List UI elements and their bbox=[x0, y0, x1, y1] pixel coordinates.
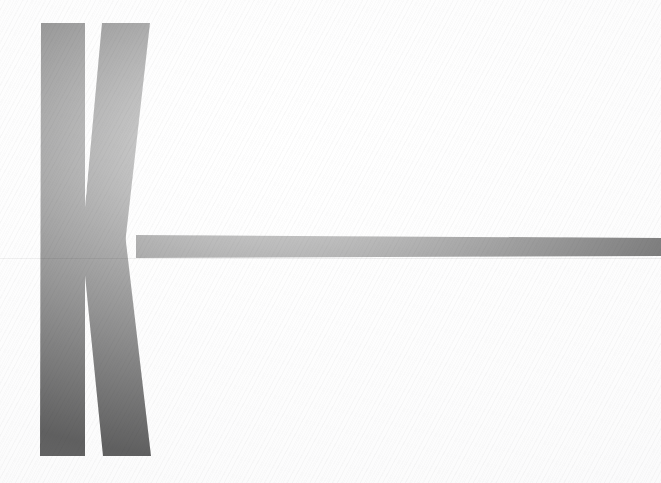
letter-k-artwork bbox=[0, 0, 661, 483]
horizontal-rule-bar bbox=[136, 235, 661, 258]
artwork-canvas: K bbox=[0, 0, 661, 483]
left-vertical-stem bbox=[40, 23, 85, 456]
